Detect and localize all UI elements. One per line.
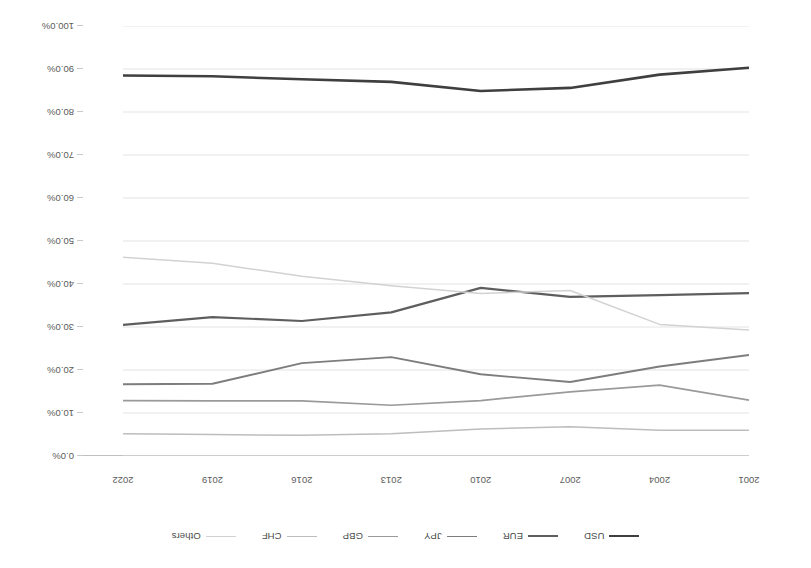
y-tick-label-0: 0.0% bbox=[18, 451, 74, 462]
x-tick-label-2016: 2016 bbox=[282, 475, 322, 486]
x-tick-label-2013: 2013 bbox=[371, 475, 411, 486]
legend-label-usd: USD bbox=[584, 531, 604, 542]
chart-svg bbox=[123, 26, 749, 456]
y-tick-mark-60 bbox=[77, 197, 83, 198]
series-line-chf[interactable] bbox=[123, 427, 749, 436]
series-line-others[interactable] bbox=[123, 257, 749, 330]
y-tick-label-30: 30.0% bbox=[18, 322, 74, 333]
series-line-usd[interactable] bbox=[123, 68, 749, 91]
legend-swatch-eur-icon bbox=[528, 536, 558, 538]
y-tick-mark-0 bbox=[77, 455, 83, 456]
legend-label-others: Others bbox=[172, 531, 201, 542]
series-line-jpy[interactable] bbox=[123, 355, 749, 384]
gridlines bbox=[123, 26, 749, 456]
legend-item-usd[interactable]: USD bbox=[584, 531, 639, 542]
y-tick-label-40: 40.0% bbox=[18, 279, 74, 290]
series-lines bbox=[123, 68, 749, 436]
legend-item-gbp[interactable]: GBP bbox=[343, 531, 398, 542]
y-tick-label-20: 20.0% bbox=[18, 365, 74, 376]
chart-legend: USDEURJPYGBPCHFOthers bbox=[0, 531, 811, 542]
legend-label-eur: EUR bbox=[503, 531, 523, 542]
legend-swatch-others-icon bbox=[206, 536, 236, 537]
x-tick-label-2022: 2022 bbox=[103, 475, 143, 486]
legend-swatch-usd-icon bbox=[609, 536, 639, 538]
y-tick-label-100: 100.0% bbox=[18, 21, 74, 32]
x-tick-label-2007: 2007 bbox=[550, 475, 590, 486]
legend-item-jpy[interactable]: JPY bbox=[424, 531, 477, 542]
y-tick-mark-40 bbox=[77, 283, 83, 284]
legend-label-gbp: GBP bbox=[343, 531, 363, 542]
y-tick-label-70: 70.0% bbox=[18, 150, 74, 161]
y-tick-label-50: 50.0% bbox=[18, 236, 74, 247]
series-line-eur[interactable] bbox=[123, 288, 749, 325]
legend-item-others[interactable]: Others bbox=[172, 531, 236, 542]
y-tick-mark-90 bbox=[77, 68, 83, 69]
legend-label-chf: CHF bbox=[262, 531, 282, 542]
chart-figure: USDEURJPYGBPCHFOthers 200120042007201020… bbox=[0, 0, 811, 568]
plot-area bbox=[123, 26, 749, 456]
x-tick-label-2010: 2010 bbox=[461, 475, 501, 486]
legend-label-jpy: JPY bbox=[424, 531, 442, 542]
y-tick-label-80: 80.0% bbox=[18, 107, 74, 118]
legend-swatch-gbp-icon bbox=[368, 536, 398, 537]
y-tick-mark-10 bbox=[77, 412, 83, 413]
y-tick-mark-80 bbox=[77, 111, 83, 112]
y-tick-mark-30 bbox=[77, 326, 83, 327]
y-tick-label-60: 60.0% bbox=[18, 193, 74, 204]
x-tick-label-2019: 2019 bbox=[192, 475, 232, 486]
legend-swatch-jpy-icon bbox=[447, 536, 477, 537]
y-tick-label-10: 10.0% bbox=[18, 408, 74, 419]
legend-item-eur[interactable]: EUR bbox=[503, 531, 558, 542]
y-tick-mark-20 bbox=[77, 369, 83, 370]
y-tick-mark-70 bbox=[77, 154, 83, 155]
x-tick-label-2004: 2004 bbox=[640, 475, 680, 486]
y-tick-mark-100 bbox=[77, 25, 83, 26]
x-tick-label-2001: 2001 bbox=[729, 475, 769, 486]
y-tick-label-90: 90.0% bbox=[18, 64, 74, 75]
legend-swatch-chf-icon bbox=[287, 536, 317, 537]
legend-item-chf[interactable]: CHF bbox=[262, 531, 317, 542]
series-line-gbp[interactable] bbox=[123, 385, 749, 405]
y-tick-mark-50 bbox=[77, 240, 83, 241]
